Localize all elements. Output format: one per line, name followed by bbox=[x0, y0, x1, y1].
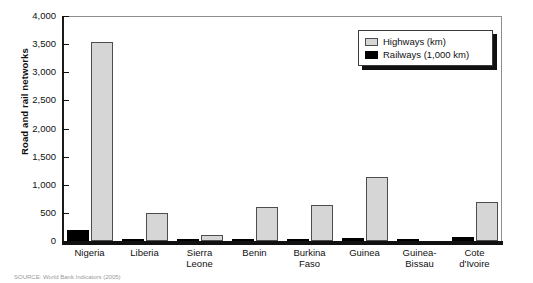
bar-chart: Road and rail networks 05001,0001,5002,0… bbox=[0, 0, 533, 283]
x-axis-label-line: Guinea- bbox=[392, 247, 447, 258]
bar-highways bbox=[476, 202, 498, 241]
x-axis-label-line: Benin bbox=[227, 247, 282, 258]
legend: Highways (km)Railways (1,000 km) bbox=[358, 30, 493, 66]
y-tick-label: 1,500 bbox=[0, 152, 56, 162]
bar-highways bbox=[91, 42, 113, 241]
legend-item[interactable]: Railways (1,000 km) bbox=[365, 48, 486, 61]
bar-group bbox=[62, 16, 117, 241]
x-axis-label: Guinea bbox=[337, 247, 392, 258]
bar-group bbox=[282, 16, 337, 241]
x-axis-label-line: Faso bbox=[282, 258, 337, 269]
x-axis-label-line: Liberia bbox=[117, 247, 172, 258]
y-tick-label: 3,500 bbox=[0, 39, 56, 49]
x-axis-label-line: Sierra bbox=[172, 247, 227, 258]
x-axis-label-line: Cote bbox=[447, 247, 502, 258]
legend-item[interactable]: Highways (km) bbox=[365, 35, 486, 48]
highways-swatch bbox=[365, 38, 378, 46]
x-axis-label-line: Guinea bbox=[337, 247, 392, 258]
x-axis-label: BurkinaFaso bbox=[282, 247, 337, 269]
y-tick-label: 500 bbox=[0, 208, 56, 218]
x-axis-label-line: Burkina bbox=[282, 247, 337, 258]
x-axis-label: Benin bbox=[227, 247, 282, 258]
x-axis-label: Liberia bbox=[117, 247, 172, 258]
x-axis-label-line: Nigeria bbox=[62, 247, 117, 258]
x-axis-label: Nigeria bbox=[62, 247, 117, 258]
x-axis-label-line: Bissau bbox=[392, 258, 447, 269]
y-tick-label: 0 bbox=[0, 236, 56, 246]
source-note: SOURCE: World Bank Indicators (2005) bbox=[14, 274, 121, 281]
x-axis-label: SierraLeone bbox=[172, 247, 227, 269]
y-tick-label: 4,000 bbox=[0, 11, 56, 21]
y-tick-label: 2,500 bbox=[0, 95, 56, 105]
railways-swatch bbox=[365, 51, 378, 59]
axis-baseline bbox=[62, 241, 503, 245]
y-tick-label: 2,000 bbox=[0, 124, 56, 134]
y-tick-label: 1,000 bbox=[0, 180, 56, 190]
bar-highways bbox=[311, 205, 333, 241]
bar-group bbox=[227, 16, 282, 241]
x-axis-label-line: Leone bbox=[172, 258, 227, 269]
legend-label: Highways (km) bbox=[383, 37, 446, 47]
x-axis-label: Coted'Ivoire bbox=[447, 247, 502, 269]
y-tick-label: 3,000 bbox=[0, 67, 56, 77]
bar-highways bbox=[256, 207, 278, 241]
bar-group bbox=[117, 16, 172, 241]
bar-group bbox=[172, 16, 227, 241]
x-axis-label: Guinea-Bissau bbox=[392, 247, 447, 269]
bar-highways bbox=[146, 213, 168, 241]
bar-railways bbox=[67, 230, 89, 241]
bar-highways bbox=[366, 177, 388, 241]
x-axis-label-line: d'Ivoire bbox=[447, 258, 502, 269]
legend-label: Railways (1,000 km) bbox=[383, 50, 469, 60]
